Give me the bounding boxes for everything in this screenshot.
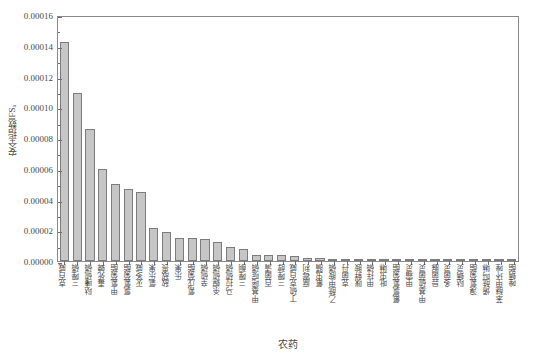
- bar: [469, 259, 478, 261]
- bar-cell: [58, 17, 71, 261]
- bar: [239, 249, 248, 261]
- x-axis-title: 农药: [57, 336, 519, 351]
- y-tick-mark-minor: [58, 155, 60, 156]
- bar-cell: [122, 17, 135, 261]
- x-tick-label: 毒死蜱: [98, 264, 106, 287]
- x-tick-label: 三唑酮: [239, 264, 247, 287]
- bar-cell: [84, 17, 97, 261]
- x-tick-label: 苯醚甲环唑: [496, 264, 504, 303]
- x-tick-label: 氟虫腈: [316, 264, 324, 287]
- bar: [354, 259, 363, 261]
- bar-cell: [493, 17, 506, 261]
- bar-cell: [211, 17, 224, 261]
- y-tick-mark: [58, 232, 62, 233]
- x-tick-label: 三唑磷: [72, 264, 80, 287]
- bar: [303, 258, 312, 261]
- y-tick-mark: [58, 109, 62, 110]
- bar: [73, 93, 82, 261]
- x-tick-label: 辛硫磷: [201, 264, 209, 287]
- bar-cell: [339, 17, 352, 261]
- x-tick-label: 甲基嘧啶磷: [252, 264, 260, 303]
- x-tick-label: 丁硫克百威: [290, 264, 298, 303]
- bar: [162, 232, 171, 261]
- x-tick-label: 乐果: [175, 264, 183, 280]
- bar: [175, 238, 184, 261]
- bar: [418, 259, 427, 261]
- bar-cell: [109, 17, 122, 261]
- x-tick-label: 烯酰吗啉: [483, 264, 491, 295]
- x-tick-label: 氰戊菊酯: [188, 264, 196, 295]
- bar: [443, 259, 452, 261]
- x-tick-label: 乙酰甲胺磷: [329, 264, 337, 303]
- x-tick-label: 杀螟硫磷: [213, 264, 221, 295]
- bar-cell: [199, 17, 212, 261]
- bar-cell: [378, 17, 391, 261]
- bar: [85, 129, 94, 261]
- bar: [392, 259, 401, 261]
- bar-cell: [314, 17, 327, 261]
- x-tick-label: 三唑醇: [278, 264, 286, 287]
- bar-cell: [390, 17, 403, 261]
- bar: [200, 239, 209, 261]
- bar-cell: [71, 17, 84, 261]
- y-tick-mark-minor: [58, 186, 60, 187]
- bar: [188, 238, 197, 261]
- y-tick-mark-minor: [58, 63, 60, 64]
- bar-cell: [186, 17, 199, 261]
- y-tick-mark-minor: [58, 125, 60, 126]
- x-tick-label: 哒螨灵: [457, 264, 465, 287]
- bar: [124, 189, 133, 261]
- bar-cell: [288, 17, 301, 261]
- bar-cell: [135, 17, 148, 261]
- y-tick-mark: [58, 140, 62, 141]
- y-tick-mark: [58, 17, 62, 18]
- x-tick-label: 腐霉利: [303, 264, 311, 287]
- bar: [213, 242, 222, 261]
- bar-cell: [505, 17, 518, 261]
- x-tick-label: 唑螨酯: [509, 264, 517, 287]
- bar: [136, 192, 145, 261]
- y-tick-mark-minor: [58, 94, 60, 95]
- bar-cell: [480, 17, 493, 261]
- y-tick-mark-minor: [58, 248, 60, 249]
- bar: [226, 247, 235, 261]
- bar: [98, 169, 107, 261]
- bar: [341, 259, 350, 261]
- bar-cell: [263, 17, 276, 261]
- y-tick-mark: [58, 48, 62, 49]
- y-tick-mark: [58, 202, 62, 203]
- x-tick-label: 克百威: [59, 264, 67, 287]
- bar: [430, 259, 439, 261]
- bar-cell: [454, 17, 467, 261]
- x-tick-label: 异菌脲: [432, 264, 440, 287]
- x-tick-label: 百菌清: [265, 264, 273, 287]
- x-tick-label: 甲基硫菌灵: [419, 264, 427, 303]
- bar-cell: [429, 17, 442, 261]
- chart-figure: 安全指数IFSₐ 0.000000.000020.000040.000060.0…: [0, 0, 537, 358]
- y-axis-title-text: 安全指数IFSₐ: [5, 105, 18, 156]
- plot-area: [57, 16, 519, 262]
- bar-cell: [467, 17, 480, 261]
- bar-cell: [403, 17, 416, 261]
- x-tick-label: 克菌丹: [342, 264, 350, 287]
- y-tick-mark: [58, 79, 62, 80]
- bar-cell: [160, 17, 173, 261]
- x-tick-label: 马拉硫磷: [226, 264, 234, 295]
- y-tick-mark: [58, 171, 62, 172]
- x-axis-tick-labels: 克百威三唑磷哒嗪硫磷毒死蜱甲氰菊酯氯氰菊酯灭多威氧乐果敌敌畏乐果氰戊菊酯辛硫磷杀…: [57, 264, 519, 336]
- bar-cell: [301, 17, 314, 261]
- x-tick-label: 多菌灵: [444, 264, 452, 287]
- bar: [315, 258, 324, 261]
- y-tick-mark-minor: [58, 32, 60, 33]
- x-tick-label: 咪鲜胺: [355, 264, 363, 287]
- x-tick-label: 甲拌磷: [367, 264, 375, 287]
- bar-cell: [147, 17, 160, 261]
- y-tick-mark-minor: [58, 217, 60, 218]
- bar: [494, 259, 503, 261]
- x-tick-label: 甲氰菊酯: [111, 264, 119, 295]
- bar: [328, 259, 337, 261]
- x-tick-label: 敌敌畏: [162, 264, 170, 287]
- bar-cell: [275, 17, 288, 261]
- x-tick-label: 灭多威: [136, 264, 144, 287]
- x-tick-label: 溴氰菊酯: [470, 264, 478, 295]
